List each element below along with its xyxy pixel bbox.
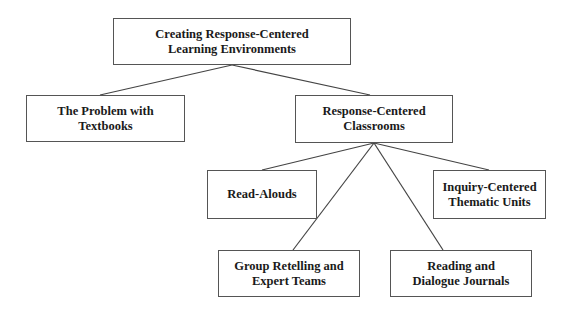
diagram-canvas: Creating Response-Centered Learning Envi… — [0, 0, 572, 316]
node-reading-and-dialogue-journals: Reading and Dialogue Journals — [390, 250, 532, 297]
connector-classrooms-inquiry — [374, 143, 489, 170]
node-response-centered-classrooms: Response-Centered Classrooms — [295, 95, 453, 143]
connector-root-classrooms — [232, 65, 370, 95]
node-inquiry-centered-thematic-units: Inquiry-Centered Thematic Units — [433, 170, 546, 219]
node-creating-response-centered-learning-environments: Creating Response-Centered Learning Envi… — [113, 18, 351, 65]
node-group-retelling-and-expert-teams: Group Retelling and Expert Teams — [218, 250, 360, 297]
node-the-problem-with-textbooks: The Problem with Textbooks — [26, 95, 185, 142]
node-read-alouds: Read-Alouds — [207, 170, 317, 219]
connector-root-problem — [100, 65, 232, 95]
